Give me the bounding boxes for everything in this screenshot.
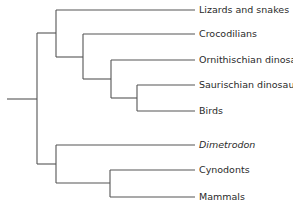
- taxon-label-ornithischian-dinosaurs: Ornithischian dinosaurs: [199, 55, 293, 65]
- taxon-label-dimetrodon: Dimetrodon: [199, 140, 255, 150]
- taxon-label-birds: Birds: [199, 106, 223, 116]
- taxon-label-saurischian-dinosaurs: Saurischian dinosaurs: [199, 80, 293, 90]
- taxon-label-crocodilians: Crocodilians: [199, 29, 257, 39]
- taxon-label-mammals: Mammals: [199, 192, 245, 202]
- taxon-label-lizards-and-snakes: Lizards and snakes: [199, 5, 289, 15]
- taxon-label-cynodonts: Cynodonts: [199, 165, 250, 175]
